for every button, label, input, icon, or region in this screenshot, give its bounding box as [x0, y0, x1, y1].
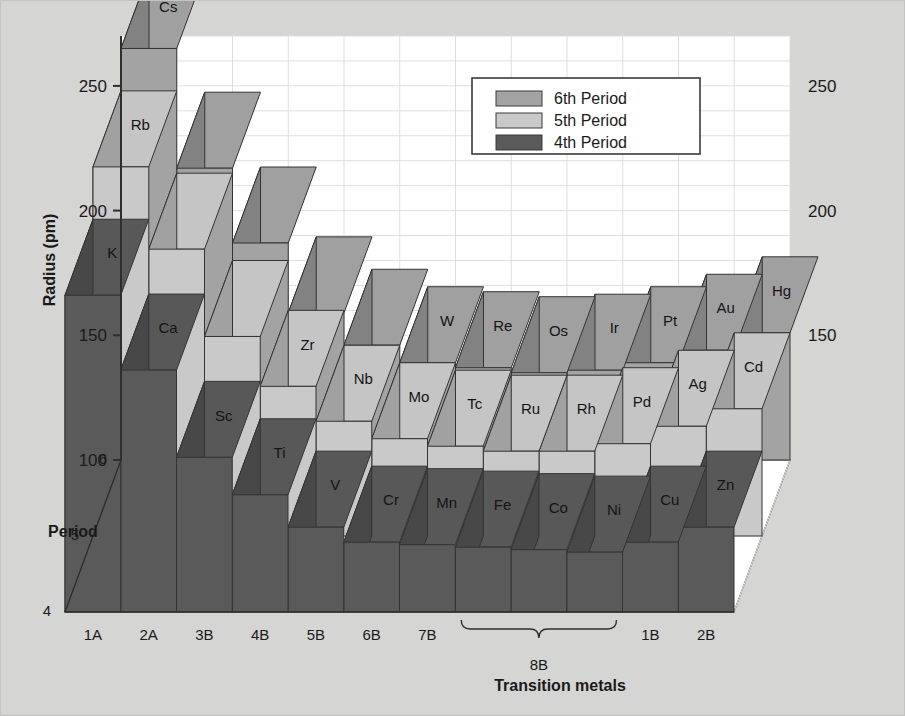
x-axis-tick-label: 1A [84, 626, 102, 643]
depth-axis-tick-label: 4 [43, 602, 51, 619]
bar-element-label: Au [717, 299, 735, 316]
bar-front-face [232, 495, 288, 612]
y-axis-tick-label: 250 [79, 77, 107, 96]
bar-element-label: Sc [215, 407, 233, 424]
bar-element-label: Nb [354, 370, 373, 387]
bar-element-label: Cd [744, 358, 763, 375]
bar-element-label: Cu [660, 491, 679, 508]
x-axis-tick-label: 2A [139, 626, 157, 643]
bar-element-label: K [107, 244, 117, 261]
x-axis-tick-label: 2B [697, 626, 715, 643]
x-axis-tick-label: 3B [195, 626, 213, 643]
bar-element-label: Pd [633, 393, 651, 410]
bar-element-label: Ni [607, 501, 621, 518]
y-axis-right-tick-label: 200 [808, 202, 836, 221]
bar-front-face [511, 550, 567, 612]
bar-element-label: Fe [494, 496, 512, 513]
bar-element-label: Co [549, 499, 568, 516]
bar-element-label: Mo [409, 388, 430, 405]
chart-canvas: HgAuPtIrOsReWCsCdAgPdRhRuTcMoNbZrRbZnCuN… [0, 0, 905, 716]
bar-element-label: Cr [383, 491, 399, 508]
legend-swatch [496, 113, 542, 128]
bar-front-face [455, 547, 511, 612]
bar-element-label: W [440, 312, 455, 329]
bar-front-face [121, 370, 177, 612]
legend: 6th Period5th Period4th Period [472, 78, 700, 154]
bar-element-label: Cs [159, 0, 177, 15]
y-axis-title: Radius (pm) [41, 214, 58, 306]
bar-element-label: Os [549, 322, 568, 339]
legend-item[interactable]: 4th Period [496, 134, 627, 151]
bar-front-face [567, 552, 623, 612]
legend-label: 6th Period [554, 90, 627, 107]
y-axis-right-tick-label: 250 [808, 77, 836, 96]
bar-element-label: Rh [577, 400, 596, 417]
bar-element-label: Zn [717, 476, 735, 493]
bar-element-label: Tc [467, 395, 483, 412]
bar-element-label: V [330, 476, 340, 493]
y-axis-tick-label: 200 [79, 202, 107, 221]
bar-element-label: Mn [436, 494, 457, 511]
x-axis-tick-label: 4B [251, 626, 269, 643]
x-axis-tick-label: 6B [362, 626, 380, 643]
depth-axis-tick-label: 6 [99, 450, 107, 467]
bar-element-label: Zr [300, 336, 314, 353]
bar-element-label: Ir [610, 319, 619, 336]
bar-element-label: Pt [663, 312, 678, 329]
bar-element-label: Ca [158, 319, 178, 336]
legend-label: 5th Period [554, 112, 627, 129]
bar-front-face [678, 527, 734, 612]
bar-element-label: Rb [131, 116, 150, 133]
x-axis-tick-label: 7B [418, 626, 436, 643]
chart-figure: HgAuPtIrOsReWCsCdAgPdRhRuTcMoNbZrRbZnCuN… [0, 0, 905, 716]
bar-element-label: Ru [521, 400, 540, 417]
bar-element-label: Re [493, 317, 512, 334]
x-axis-tick-label: 5B [307, 626, 325, 643]
legend-swatch [496, 135, 542, 150]
bar-front-face [177, 457, 233, 612]
depth-axis-title: Period [48, 523, 98, 540]
y-axis-tick-label: 150 [79, 326, 107, 345]
legend-item[interactable]: 6th Period [496, 90, 627, 107]
legend-swatch [496, 91, 542, 106]
x-axis-title: Transition metals [494, 677, 626, 694]
legend-item[interactable]: 5th Period [496, 112, 627, 129]
y-axis-right-tick-label: 150 [808, 326, 836, 345]
x-axis-tick-label: 1B [641, 626, 659, 643]
bar-front-face [623, 542, 679, 612]
x-axis-tick-label: 8B [530, 656, 548, 673]
bar-front-face [400, 545, 456, 612]
legend-label: 4th Period [554, 134, 627, 151]
bar-front-face [344, 542, 400, 612]
bar-element-label: Hg [772, 282, 791, 299]
bar-element-label: Ag [689, 375, 707, 392]
bar-front-face [288, 527, 344, 612]
bar-element-label: Ti [274, 444, 286, 461]
